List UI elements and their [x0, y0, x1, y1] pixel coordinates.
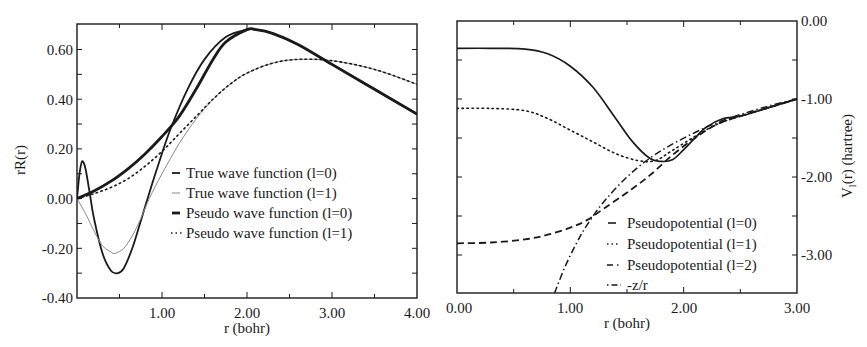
right-legend: Pseudopotential (l=0) Pseudopotential (l…	[607, 215, 757, 293]
x-tick-label: 3.00	[319, 305, 345, 321]
y-tick-label: 0.40	[47, 92, 73, 108]
legend-label: True wave function (l=1)	[186, 185, 337, 202]
y-tick-label: 0.00	[801, 13, 827, 29]
y-title-rest: (r) (hartree)	[839, 114, 856, 184]
series-line	[457, 99, 797, 162]
x-tick-label: 3.00	[784, 300, 810, 316]
x-tick-label: 1.00	[149, 305, 175, 321]
left-legend: True wave function (l=0) True wave funct…	[171, 165, 352, 242]
x-tick-label: 0.00	[446, 300, 472, 316]
legend-label: True wave function (l=0)	[186, 165, 337, 182]
legend-label: -z/r	[627, 277, 648, 293]
figure: 0.60 0.40 0.20 0.00 -0.20 -0.40 1.00 2.0…	[0, 0, 867, 347]
y-tick-label: 0.20	[47, 141, 73, 157]
x-tick-label: 1.00	[557, 300, 583, 316]
legend-label: Pseudopotential (l=2)	[627, 257, 757, 274]
y-tick-label: -0.20	[42, 241, 73, 257]
y-title-v: V	[839, 187, 855, 198]
left-y-axis-title: rR(r)	[12, 145, 29, 175]
left-plot-frame	[77, 24, 417, 298]
y-tick-label: 0.60	[47, 42, 73, 58]
y-tick-label: -3.00	[801, 247, 832, 263]
right-y-tick-labels: 0.00 -1.00 -2.00 -3.00	[801, 13, 832, 263]
right-plot: 0.00 -1.00 -2.00 -3.00 0.00 1.00 2.00 3.…	[446, 13, 858, 332]
legend-label: Pseudo wave function (l=1)	[186, 225, 352, 242]
legend-label: Pseudopotential (l=1)	[627, 236, 757, 253]
y-tick-label: -1.00	[801, 91, 832, 107]
x-tick-label: 4.00	[404, 305, 430, 321]
x-tick-label: 2.00	[234, 305, 260, 321]
series-line	[457, 48, 797, 161]
right-y-axis-title: Vl(r) (hartree)	[839, 114, 858, 198]
y-tick-label: 0.00	[47, 191, 73, 207]
left-axis-ticks	[77, 24, 417, 298]
svg-text:Vl(r) (hartree): Vl(r) (hartree)	[839, 114, 858, 198]
x-tick-label: 2.00	[671, 300, 697, 316]
left-y-tick-labels: 0.60 0.40 0.20 0.00 -0.20 -0.40	[42, 42, 73, 306]
y-tick-label: -0.40	[42, 290, 73, 306]
left-plot: 0.60 0.40 0.20 0.00 -0.20 -0.40 1.00 2.0…	[12, 24, 430, 337]
left-x-tick-labels: 1.00 2.00 3.00 4.00	[149, 305, 430, 321]
right-x-axis-title: r (bohr)	[604, 315, 650, 332]
legend-label: Pseudo wave function (l=0)	[186, 205, 352, 222]
y-tick-label: -2.00	[801, 169, 832, 185]
right-x-tick-labels: 0.00 1.00 2.00 3.00	[446, 300, 810, 316]
left-x-axis-title: r (bohr)	[224, 320, 270, 337]
legend-label: Pseudopotential (l=0)	[627, 215, 757, 232]
